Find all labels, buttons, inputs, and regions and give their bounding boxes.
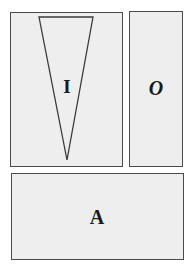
label-a: A xyxy=(90,207,104,227)
label-o: O xyxy=(149,78,163,98)
label-i: I xyxy=(63,77,70,96)
